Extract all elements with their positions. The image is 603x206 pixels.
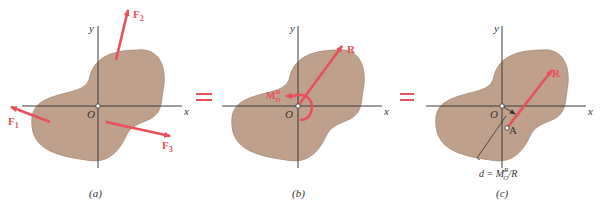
origin-point <box>500 104 504 108</box>
force-f1-label: F1 <box>8 115 19 130</box>
resultant-r-label: R <box>347 43 356 55</box>
equals-sign-2 <box>400 94 414 100</box>
equivalent-force-systems-diagram: y x O F2 F1 F3 y x O R MRO y x O R A d =… <box>0 0 603 206</box>
x-axis-label: x <box>183 105 189 117</box>
origin-label: O <box>490 108 498 120</box>
origin-label: O <box>285 108 293 120</box>
panel-b <box>222 26 382 168</box>
y-axis-label: y <box>493 22 499 34</box>
point-a-label: A <box>509 124 517 136</box>
origin-point <box>296 104 300 108</box>
x-axis-label: x <box>383 105 389 117</box>
origin-point <box>96 104 100 108</box>
x-axis-label: x <box>587 105 593 117</box>
caption-a: (a) <box>89 187 102 200</box>
force-f2-label: F2 <box>133 8 144 23</box>
resultant-r-label: R <box>552 67 561 79</box>
distance-formula: d = MRO/R <box>479 166 517 182</box>
force-f3-label: F3 <box>162 139 173 154</box>
origin-label: O <box>87 108 95 120</box>
panel-c <box>426 26 586 168</box>
equals-sign-1 <box>196 94 212 100</box>
y-axis-label: y <box>289 22 295 34</box>
caption-c: (c) <box>496 187 509 200</box>
caption-b: (b) <box>292 187 305 200</box>
panel-a <box>11 10 182 168</box>
y-axis-label: y <box>88 22 94 34</box>
